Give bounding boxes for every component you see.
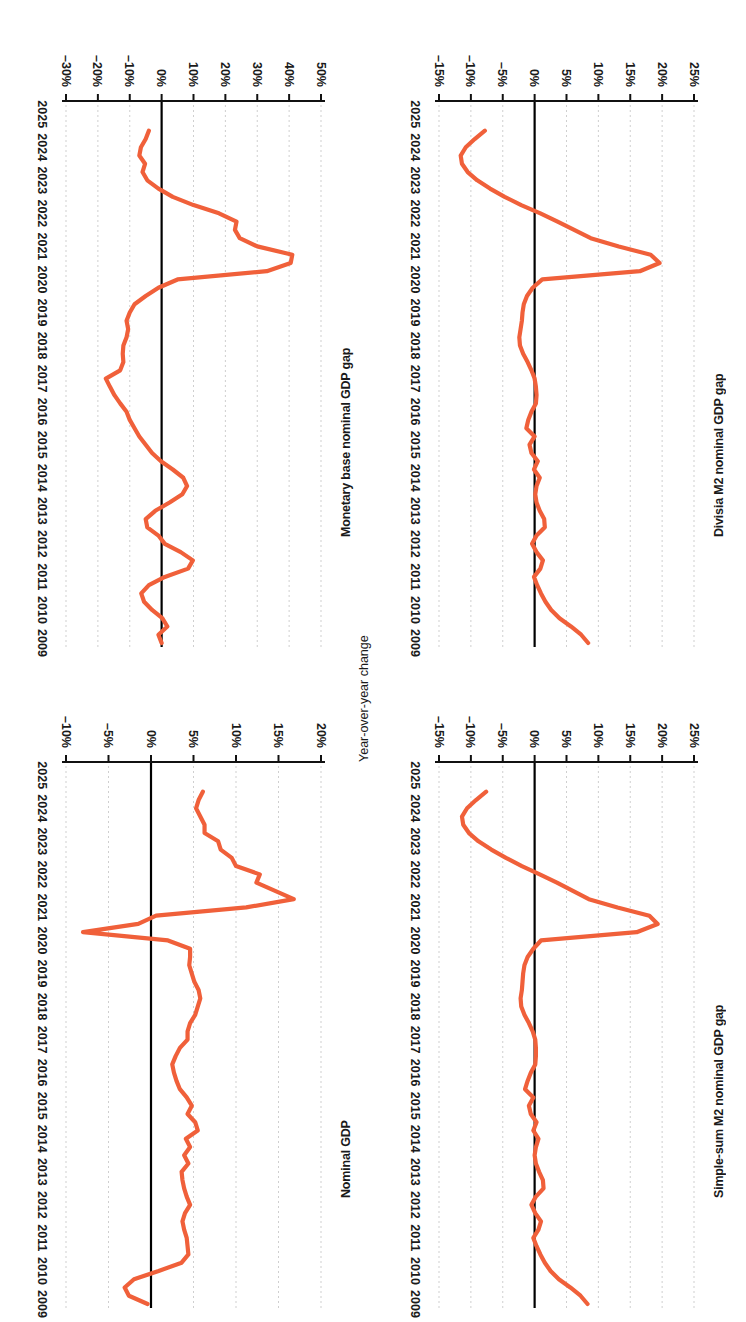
year-tick-label: 2018 (35, 332, 49, 360)
chart-grid: Simple-sum M2 nominal GDP gap 25%20%15%1… (0, 0, 746, 1322)
value-tick-label: –5% (495, 723, 509, 748)
year-tick-label: 2012 (35, 530, 49, 558)
year-tick-label: 2021 (408, 233, 422, 261)
value-tick-label: 10% (229, 723, 243, 748)
year-tick-label: 2018 (35, 993, 49, 1021)
panel-title-nominal-gdp: Nominal GDP (339, 1120, 353, 1198)
year-tick-label: 2016 (35, 398, 49, 426)
value-tick-label: 15% (623, 62, 637, 87)
year-tick-label: 2022 (35, 199, 49, 227)
year-tick-label: 2019 (408, 960, 422, 988)
panel-title-simple-sum-m2: Simple-sum M2 nominal GDP gap (712, 1005, 726, 1198)
year-tick-label: 2011 (35, 563, 49, 590)
year-tick-label: 2023 (408, 166, 422, 194)
year-tick-label: 2014 (35, 464, 49, 492)
year-tick-label: 2017 (408, 1026, 422, 1054)
value-tick-label: 0% (527, 69, 541, 87)
year-tick-label: 2014 (408, 1125, 422, 1153)
year-tick-label: 2017 (408, 365, 422, 393)
year-tick-label: 2009 (408, 1290, 422, 1318)
data-series-line (83, 792, 294, 1304)
year-tick-label: 2014 (408, 464, 422, 492)
value-tick-label: 5% (559, 730, 573, 748)
year-tick-label: 2020 (408, 927, 422, 955)
year-tick-label: 2009 (35, 1290, 49, 1318)
value-tick-label: 10% (186, 62, 200, 87)
year-tick-label: 2025 (35, 100, 49, 128)
value-tick-label: –10% (463, 716, 477, 748)
value-tick-label: 20% (655, 62, 669, 87)
year-tick-label: 2024 (408, 794, 422, 822)
year-tick-label: 2015 (408, 1092, 422, 1120)
value-tick-label: 15% (623, 723, 637, 748)
year-tick-label: 2011 (35, 1224, 49, 1251)
year-tick-label: 2011 (408, 563, 422, 590)
year-tick-label: 2018 (408, 332, 422, 360)
year-tick-label: 2011 (408, 1224, 422, 1251)
value-tick-label: 0% (144, 730, 158, 748)
year-tick-label: 2016 (35, 1059, 49, 1087)
year-tick-label: 2022 (35, 860, 49, 888)
panel-title-monetary-base: Monetary base nominal GDP gap (339, 348, 353, 537)
year-tick-label: 2020 (408, 266, 422, 294)
panel-simple-sum-m2: Simple-sum M2 nominal GDP gap 25%20%15%1… (373, 661, 746, 1322)
year-tick-label: 2022 (408, 860, 422, 888)
year-tick-label: 2017 (35, 365, 49, 393)
value-tick-label: 15% (271, 723, 285, 748)
year-tick-label: 2010 (408, 596, 422, 624)
value-tick-label: 5% (186, 730, 200, 748)
rotated-figure: Simple-sum M2 nominal GDP gap 25%20%15%1… (0, 0, 746, 1322)
year-tick-label: 2017 (35, 1026, 49, 1054)
year-tick-label: 2024 (408, 133, 422, 161)
year-tick-label: 2024 (35, 133, 49, 161)
plot-monetary-base: 50%40%30%20%10%0%–10%–20%–30%20092010201… (0, 0, 373, 661)
year-tick-label: 2019 (35, 299, 49, 327)
year-tick-label: 2023 (35, 166, 49, 194)
value-tick-label: 10% (591, 723, 605, 748)
year-tick-label: 2016 (408, 1059, 422, 1087)
year-tick-label: 2012 (408, 1191, 422, 1219)
value-tick-label: 20% (655, 723, 669, 748)
year-tick-label: 2025 (408, 761, 422, 789)
value-tick-label: –10% (59, 716, 73, 748)
value-tick-label: –5% (495, 62, 509, 87)
year-tick-label: 2014 (35, 1125, 49, 1153)
value-tick-label: –10% (463, 55, 477, 87)
year-tick-label: 2013 (35, 497, 49, 525)
data-series-line (461, 131, 660, 643)
year-tick-label: 2010 (408, 1257, 422, 1285)
year-tick-label: 2015 (408, 431, 422, 459)
year-tick-label: 2009 (408, 629, 422, 657)
panel-title-divisia-m2: Divisia M2 nominal GDP gap (712, 374, 726, 537)
year-tick-label: 2025 (408, 100, 422, 128)
year-tick-label: 2020 (35, 266, 49, 294)
year-tick-label: 2021 (35, 894, 49, 922)
value-tick-label: –5% (101, 723, 115, 748)
value-tick-label: –15% (432, 55, 446, 87)
year-tick-label: 2020 (35, 927, 49, 955)
year-tick-label: 2021 (35, 233, 49, 261)
year-tick-label: 2019 (408, 299, 422, 327)
value-tick-label: 20% (218, 62, 232, 87)
year-tick-label: 2015 (35, 1092, 49, 1120)
panel-nominal-gdp: Nominal GDP Year-over-year change 20%15%… (0, 661, 373, 1322)
plot-simple-sum-m2: 25%20%15%10%5%0%–5%–10%–15%2009201020112… (373, 661, 746, 1322)
year-tick-label: 2012 (408, 530, 422, 558)
year-tick-label: 2013 (408, 497, 422, 525)
plot-nominal-gdp: 20%15%10%5%0%–5%–10%20092010201120122013… (0, 661, 373, 1322)
year-tick-label: 2018 (408, 993, 422, 1021)
value-tick-label: 25% (687, 62, 701, 87)
value-tick-label: 25% (687, 723, 701, 748)
data-series-line (106, 131, 292, 643)
year-tick-label: 2013 (35, 1158, 49, 1186)
year-tick-label: 2024 (35, 794, 49, 822)
year-tick-label: 2010 (35, 596, 49, 624)
value-tick-label: 30% (250, 62, 264, 87)
year-tick-label: 2019 (35, 960, 49, 988)
value-tick-label: –20% (90, 55, 104, 87)
year-tick-label: 2023 (408, 827, 422, 855)
year-tick-label: 2009 (35, 629, 49, 657)
year-tick-label: 2022 (408, 199, 422, 227)
value-tick-label: –15% (432, 716, 446, 748)
value-tick-label: 20% (314, 723, 328, 748)
